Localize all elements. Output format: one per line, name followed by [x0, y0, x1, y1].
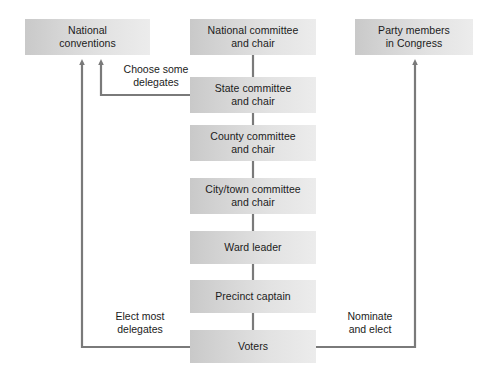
connector-voters-to-conventions: [82, 62, 190, 347]
edge-label-nominate-and-elect: Nominate and elect: [333, 310, 407, 336]
edge-label-choose-some-delegates: Choose some delegates: [110, 63, 202, 89]
connector-voters-to-congress: [316, 62, 415, 347]
node-voters[interactable]: Voters: [190, 330, 316, 363]
node-precinct-captain[interactable]: Precinct captain: [190, 280, 316, 313]
node-ward-leader[interactable]: Ward leader: [190, 231, 316, 264]
node-party-members-congress[interactable]: Party members in Congress: [355, 19, 473, 55]
node-national-committee[interactable]: National committee and chair: [190, 19, 316, 55]
node-city-town-committee[interactable]: City/town committee and chair: [190, 178, 316, 214]
node-state-committee[interactable]: State committee and chair: [190, 77, 316, 113]
node-national-conventions[interactable]: National conventions: [25, 19, 150, 55]
node-county-committee[interactable]: County committee and chair: [190, 125, 316, 161]
party-organization-diagram: National conventions National committee …: [0, 0, 488, 380]
edge-label-elect-most-delegates: Elect most delegates: [100, 310, 180, 336]
